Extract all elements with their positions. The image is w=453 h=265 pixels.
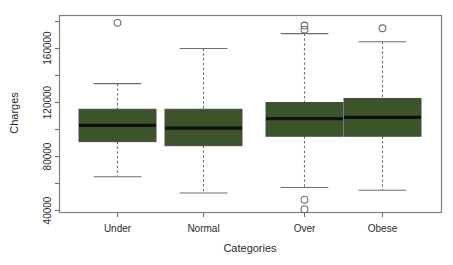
boxplot-canvas: 160000 120000 80000 40000 Charges Under … xyxy=(0,0,453,265)
boxplot-figure: 160000 120000 80000 40000 Charges Under … xyxy=(0,0,453,265)
y-axis-tick-labels: 160000 120000 80000 40000 xyxy=(42,31,53,225)
y-tick-label-40000: 40000 xyxy=(42,196,53,224)
y-axis-title: Charges xyxy=(8,92,20,134)
boxplot-obese xyxy=(344,25,421,190)
boxplot-over xyxy=(266,22,343,212)
x-axis-tick-labels: Under Normal Over Obese xyxy=(104,223,398,234)
x-tick-label-obese: Obese xyxy=(368,223,398,234)
x-tick-label-normal: Normal xyxy=(187,223,219,234)
y-axis-ticks xyxy=(55,22,60,211)
outlier-point xyxy=(301,206,308,213)
boxplot-normal xyxy=(165,49,242,193)
box-series-layer xyxy=(79,19,421,212)
boxplot-under xyxy=(79,19,156,176)
y-tick-label-160000: 160000 xyxy=(42,31,53,65)
y-tick-label-80000: 80000 xyxy=(42,142,53,170)
x-axis-title: Categories xyxy=(223,242,277,254)
outlier-point xyxy=(301,26,308,33)
x-tick-label-under: Under xyxy=(104,223,132,234)
outlier-point xyxy=(114,19,121,26)
outlier-point xyxy=(379,25,386,32)
x-axis-ticks xyxy=(118,213,383,218)
x-tick-label-over: Over xyxy=(294,223,316,234)
outlier-point xyxy=(301,196,308,203)
y-tick-label-120000: 120000 xyxy=(42,85,53,119)
